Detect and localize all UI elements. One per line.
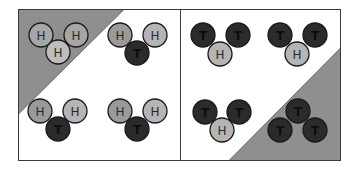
tritium-atom: T [268, 118, 292, 142]
hydrogen-atom: H [208, 42, 232, 66]
tritium-atom-label: T [276, 124, 285, 138]
hydrogen-atom: H [143, 23, 167, 47]
hydrogen-atom: H [46, 40, 70, 64]
hydrogen-atom: H [108, 23, 132, 47]
tritium-atom: T [125, 117, 149, 141]
hydrogen-atom-label: H [217, 124, 226, 138]
tritium-atom-label: T [133, 47, 142, 61]
hydrogen-atom-label: H [70, 105, 79, 119]
hydrogen-atom: H [210, 118, 234, 142]
hydrogen-atom-label: H [35, 105, 44, 119]
hydrogen-atom-label: H [150, 105, 159, 119]
tritium-atom: T [46, 117, 70, 141]
tritium-atom-label: T [201, 106, 210, 120]
tritium-atom: T [286, 99, 310, 123]
hydrogen-atom: H [63, 99, 87, 123]
tritium-atom-label: T [54, 123, 63, 137]
tritium-atom-label: T [294, 105, 303, 119]
tritium-atom: T [227, 100, 251, 124]
hydrogen-atom: H [28, 99, 52, 123]
tritium-atom-label: T [276, 29, 285, 43]
hydrogen-atom: H [108, 99, 132, 123]
tritium-atom-label: T [311, 124, 320, 138]
tritium-atom: T [303, 23, 327, 47]
tritium-atom: T [191, 23, 215, 47]
hydrogen-atom-label: H [292, 48, 301, 62]
hydrogen-atom-label: H [53, 46, 62, 60]
tritium-atom-label: T [234, 29, 243, 43]
hydrogen-atom: H [285, 42, 309, 66]
tritium-atom: T [303, 118, 327, 142]
tritium-atom-label: T [133, 123, 142, 137]
hydrogen-atom-label: H [71, 29, 80, 43]
tritium-atom-label: T [199, 29, 208, 43]
isotope-molecule-diagram: HHHHHTHHTHHTTTHTTHTTHTTT [0, 0, 358, 171]
tritium-atom: T [226, 23, 250, 47]
tritium-atom-label: T [311, 29, 320, 43]
tritium-atom-label: T [235, 106, 244, 120]
tritium-atom: T [193, 100, 217, 124]
hydrogen-atom-label: H [215, 48, 224, 62]
hydrogen-atom-label: H [36, 29, 45, 43]
tritium-atom: T [268, 23, 292, 47]
hydrogen-atom-label: H [115, 29, 124, 43]
hydrogen-atom-label: H [115, 105, 124, 119]
hydrogen-atom: H [143, 99, 167, 123]
hydrogen-atom-label: H [150, 29, 159, 43]
tritium-atom: T [125, 41, 149, 65]
hydrogen-atom: H [64, 23, 88, 47]
